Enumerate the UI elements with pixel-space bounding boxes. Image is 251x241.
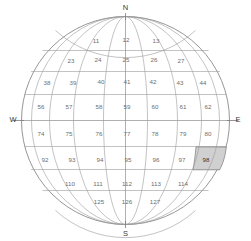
zone-cell-26[interactable]: 26 bbox=[151, 56, 158, 63]
cardinal-label-east: E bbox=[235, 115, 240, 124]
zone-cell-25[interactable]: 25 bbox=[123, 56, 130, 63]
zone-cell-77[interactable]: 77 bbox=[124, 130, 131, 137]
globe-figure: N S E W 11121323242526273839404142434456… bbox=[0, 0, 251, 241]
zone-cell-96[interactable]: 96 bbox=[153, 156, 160, 163]
zone-cell-43[interactable]: 43 bbox=[177, 79, 184, 86]
zone-cell-127[interactable]: 127 bbox=[150, 198, 161, 205]
zone-cell-76[interactable]: 76 bbox=[96, 130, 103, 137]
zone-cell-111[interactable]: 111 bbox=[93, 180, 103, 187]
zone-cell-114[interactable]: 114 bbox=[178, 180, 188, 187]
zone-cell-57[interactable]: 57 bbox=[66, 103, 73, 110]
zone-cell-38[interactable]: 38 bbox=[44, 79, 51, 86]
zone-cell-74[interactable]: 74 bbox=[38, 130, 45, 137]
zone-cell-79[interactable]: 79 bbox=[180, 130, 187, 137]
zone-cell-126[interactable]: 126 bbox=[122, 198, 133, 205]
zone-cell-75[interactable]: 75 bbox=[66, 130, 73, 137]
zone-cell-98[interactable]: 98 bbox=[203, 156, 210, 163]
zone-cell-41[interactable]: 41 bbox=[124, 78, 131, 85]
zone-cell-112[interactable]: 112 bbox=[122, 180, 132, 187]
zone-cell-60[interactable]: 60 bbox=[152, 103, 159, 110]
zone-cell-23[interactable]: 23 bbox=[68, 57, 75, 64]
cardinal-label-west: W bbox=[9, 115, 17, 124]
zone-cell-11[interactable]: 11 bbox=[93, 37, 100, 44]
zone-cell-94[interactable]: 94 bbox=[97, 156, 104, 163]
globe-diagram[interactable]: N S E W 11121323242526273839404142434456… bbox=[0, 0, 251, 241]
zone-cell-59[interactable]: 59 bbox=[124, 103, 131, 110]
cardinal-label-south: S bbox=[123, 229, 128, 238]
zone-cell-125[interactable]: 125 bbox=[94, 198, 105, 205]
zone-cell-62[interactable]: 62 bbox=[205, 103, 212, 110]
zone-cell-78[interactable]: 78 bbox=[152, 130, 159, 137]
zone-cell-40[interactable]: 40 bbox=[98, 78, 105, 85]
zone-cell-58[interactable]: 58 bbox=[96, 103, 103, 110]
zone-cell-97[interactable]: 97 bbox=[179, 156, 186, 163]
zone-cell-95[interactable]: 95 bbox=[125, 156, 132, 163]
zone-cell-80[interactable]: 80 bbox=[205, 130, 212, 137]
zone-cell-93[interactable]: 93 bbox=[69, 156, 76, 163]
zone-cell-24[interactable]: 24 bbox=[95, 56, 102, 63]
zone-cell-39[interactable]: 39 bbox=[70, 79, 77, 86]
zone-cell-110[interactable]: 110 bbox=[65, 180, 75, 187]
zone-cell-113[interactable]: 113 bbox=[151, 180, 161, 187]
zone-cell-44[interactable]: 44 bbox=[200, 79, 207, 86]
zone-cell-56[interactable]: 56 bbox=[38, 103, 45, 110]
zone-cell-12[interactable]: 12 bbox=[123, 36, 130, 43]
zone-cell-27[interactable]: 27 bbox=[178, 57, 185, 64]
zone-cell-13[interactable]: 13 bbox=[153, 37, 160, 44]
cardinal-label-north: N bbox=[123, 3, 128, 12]
zone-cell-92[interactable]: 92 bbox=[42, 156, 49, 163]
zone-cell-42[interactable]: 42 bbox=[150, 78, 157, 85]
zone-cell-61[interactable]: 61 bbox=[180, 103, 187, 110]
